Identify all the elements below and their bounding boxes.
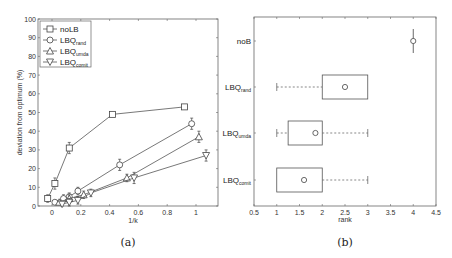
y-axis-label-a: deviation from optimum (%)	[16, 70, 24, 156]
x-tick-label: 4.5	[431, 209, 441, 216]
data-point	[181, 104, 187, 110]
x-tick-label: 0.8	[162, 209, 172, 216]
data-point	[109, 111, 115, 117]
box-noB: noB	[237, 29, 416, 53]
x-tick-label: 0.2	[76, 209, 86, 216]
chart-b: 0.511.522.533.544.5ranknoBLBQrandLBQumda…	[222, 17, 441, 249]
x-tick-label: 0.6	[134, 209, 144, 216]
box-LBQumda: LBQumda	[222, 121, 367, 145]
mean-marker	[313, 130, 318, 135]
box	[277, 168, 323, 192]
legend-item-label: noLB	[60, 25, 79, 34]
box-LBQrand: LBQrand	[225, 75, 368, 99]
x-tick-label: 1	[275, 209, 279, 216]
series-LBQcomit	[59, 150, 210, 208]
data-point	[203, 153, 210, 160]
x-tick-label: 2.5	[340, 209, 350, 216]
data-point	[45, 196, 51, 202]
data-point	[47, 26, 53, 32]
x-tick-label: 1	[194, 209, 198, 216]
category-label: LBQrand	[225, 83, 251, 93]
data-point	[131, 175, 138, 182]
y-tick-label: 50	[28, 109, 36, 116]
x-tick-label: 2	[320, 209, 324, 216]
x-tick-label: 4	[411, 209, 415, 216]
caption-a: (a)	[120, 236, 135, 249]
data-point	[52, 181, 58, 187]
x-axis-label-a: 1/k	[128, 217, 138, 224]
x-tick-label: 3	[366, 209, 370, 216]
x-tick-label: 1.5	[295, 209, 305, 216]
box-LBQcomit: LBQcomit	[223, 168, 368, 192]
y-tick-label: 30	[28, 146, 36, 153]
legend-a: noLBLBQrandLBQumdaLBQcomit	[40, 21, 91, 68]
series-LBQrand	[52, 118, 195, 205]
mean-marker	[411, 38, 416, 43]
data-point	[117, 162, 123, 168]
data-point	[66, 145, 72, 151]
data-point	[189, 121, 195, 127]
y-tick-label: 80	[28, 53, 36, 60]
y-tick-label: 100	[24, 16, 36, 23]
mean-marker	[301, 177, 306, 182]
y-tick-label: 90	[28, 34, 36, 41]
y-tick-label: 70	[28, 72, 36, 79]
x-tick-label: 3.5	[386, 209, 396, 216]
series-noLB	[45, 104, 188, 202]
x-tick-label: 0.5	[249, 209, 259, 216]
y-tick-label: 10	[28, 184, 36, 191]
y-tick-label: 20	[28, 165, 36, 172]
y-tick-label: 40	[28, 128, 36, 135]
category-label: LBQcomit	[223, 176, 252, 186]
y-tick-label: 0	[32, 203, 36, 210]
mean-marker	[342, 84, 347, 89]
category-label: noB	[237, 37, 251, 46]
data-point	[75, 188, 81, 194]
y-tick-label: 60	[28, 90, 36, 97]
series-line	[48, 107, 185, 199]
x-tick-label: 0	[50, 209, 54, 216]
chart-a: 010203040506070809010000.20.40.60.811/kd…	[16, 16, 218, 250]
x-axis-label-b: rank	[338, 216, 352, 223]
data-point	[195, 133, 202, 140]
x-tick-label: 0.4	[105, 209, 115, 216]
category-label: LBQumda	[222, 129, 251, 139]
data-point	[47, 37, 53, 43]
figure: 010203040506070809010000.20.40.60.811/kd…	[0, 0, 452, 258]
caption-b: (b)	[337, 236, 353, 249]
